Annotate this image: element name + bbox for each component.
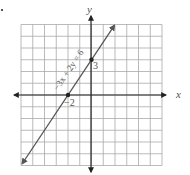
y-intercept-label: 3	[93, 60, 98, 71]
y-axis-label: y	[86, 3, 92, 15]
x-intercept-label: −2	[64, 97, 75, 108]
stray-dot	[1, 9, 3, 11]
coordinate-plane: y x 3 −2 −3x + 2y = 6	[0, 0, 190, 175]
x-axis-label: x	[175, 88, 181, 100]
